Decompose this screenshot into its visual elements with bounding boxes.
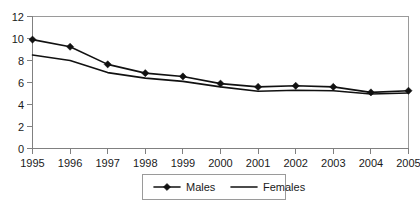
y-tick-group: 024681012: [12, 11, 33, 155]
x-axis-tick-label: 2002: [283, 157, 307, 169]
y-axis-tick-label: 2: [18, 121, 24, 133]
data-point-marker: [67, 43, 74, 50]
series-group: [29, 36, 412, 96]
data-point-marker: [104, 61, 111, 68]
x-axis-tick-label: 1998: [133, 157, 157, 169]
x-axis-tick-label: 2000: [208, 157, 232, 169]
line-chart: 024681012 199519961997199819992000200120…: [0, 0, 420, 206]
y-axis-tick-label: 10: [12, 33, 24, 45]
y-axis-tick-label: 4: [18, 99, 24, 111]
data-point-marker: [292, 82, 299, 89]
y-axis-tick-label: 0: [18, 143, 24, 155]
data-point-marker: [29, 36, 36, 43]
data-point-marker: [142, 70, 149, 77]
legend-label: Males: [186, 181, 216, 193]
data-point-marker: [367, 89, 374, 96]
x-axis-tick-label: 1996: [58, 157, 82, 169]
x-axis-tick-label: 1999: [171, 157, 195, 169]
series-females: [33, 55, 409, 94]
chart-canvas: 024681012 199519961997199819992000200120…: [0, 0, 420, 206]
chart-legend: MalesFemales: [143, 175, 306, 200]
x-axis: 1995199619971998199920002001200220032004…: [20, 149, 420, 170]
data-point-marker: [330, 83, 337, 90]
y-axis-tick-label: 12: [12, 11, 24, 23]
y-axis-tick-label: 8: [18, 55, 24, 67]
x-axis-tick-label: 2001: [246, 157, 270, 169]
y-axis: 024681012: [12, 11, 33, 155]
x-axis-tick-label: 1997: [95, 157, 119, 169]
series-line: [33, 55, 409, 94]
x-tick-group: 1995199619971998199920002001200220032004…: [20, 149, 420, 170]
x-axis-tick-label: 2005: [396, 157, 420, 169]
x-axis-tick-label: 2003: [321, 157, 345, 169]
y-axis-tick-label: 6: [18, 77, 24, 89]
data-point-marker: [179, 73, 186, 80]
data-point-marker: [255, 83, 262, 90]
legend-label: Females: [263, 181, 306, 193]
x-axis-tick-label: 2004: [359, 157, 383, 169]
x-axis-tick-label: 1995: [20, 157, 44, 169]
